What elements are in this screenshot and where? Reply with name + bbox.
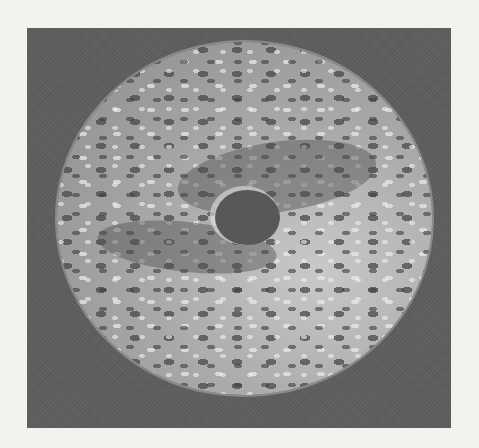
photo-frame: [27, 28, 451, 428]
center-hole: [215, 190, 280, 245]
